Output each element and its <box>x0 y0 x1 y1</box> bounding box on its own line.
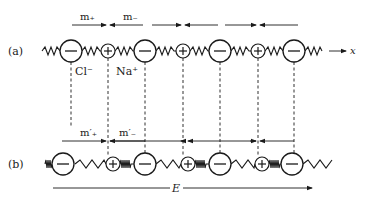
anion-icon <box>209 153 231 175</box>
row-b-label: (b) <box>8 158 24 171</box>
anion-icon <box>134 40 156 62</box>
x-axis-label: x <box>350 45 356 56</box>
anion-icon <box>283 40 305 62</box>
field-label: E <box>171 182 180 195</box>
projection-lines <box>71 58 294 157</box>
chloride-label: Cl⁻ <box>75 65 93 78</box>
anion-icon <box>134 153 156 175</box>
ionic-chain-diagram: (a) m₊ m₋ x Cl⁻ Na⁺ <box>0 0 368 207</box>
cation-icon <box>251 44 265 58</box>
cation-icon <box>181 157 195 171</box>
row-a-label: (a) <box>8 45 23 58</box>
cation-icon <box>106 157 120 171</box>
anion-icon <box>60 40 82 62</box>
anion-icon <box>281 153 303 175</box>
cation-icon <box>255 157 269 171</box>
sodium-label: Na⁺ <box>116 65 138 78</box>
anion-icon <box>52 153 74 175</box>
m-prime-minus-label: m′₋ <box>119 127 136 138</box>
anion-icon <box>209 40 231 62</box>
cation-icon <box>176 44 190 58</box>
row-a-ions <box>60 40 305 62</box>
cation-icon <box>101 44 115 58</box>
m-prime-plus-label: m′₊ <box>80 127 97 138</box>
m-minus-label: m₋ <box>123 11 138 22</box>
m-plus-label: m₊ <box>80 11 95 22</box>
